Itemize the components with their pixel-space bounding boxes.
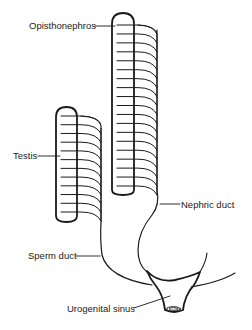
tubule bbox=[117, 97, 157, 106]
sperm-duct bbox=[101, 128, 152, 285]
tubule bbox=[117, 168, 157, 177]
label-sperm-duct: Sperm duct bbox=[28, 250, 100, 261]
tubule bbox=[117, 159, 157, 168]
tubule bbox=[117, 52, 157, 61]
svg-text:Testis: Testis bbox=[13, 150, 38, 161]
tubule bbox=[117, 106, 157, 115]
tubule bbox=[61, 195, 101, 204]
label-testis: Testis bbox=[13, 150, 60, 161]
tubule bbox=[61, 177, 101, 186]
tubule bbox=[61, 168, 101, 177]
tubule bbox=[61, 212, 101, 221]
tubule bbox=[117, 186, 157, 195]
label-opisthonephros: Opisthonephros bbox=[29, 20, 115, 31]
tubule bbox=[117, 70, 157, 79]
tubule bbox=[117, 141, 157, 150]
urogenital-diagram: Opisthonephros Testis Nephric duct Sperm… bbox=[0, 0, 252, 330]
label-urogenital-sinus: Urogenital sinus bbox=[67, 296, 170, 314]
svg-text:Urogenital sinus: Urogenital sinus bbox=[67, 303, 135, 314]
tubule bbox=[61, 160, 101, 169]
opisthonephros bbox=[112, 13, 157, 195]
label-nephric-duct: Nephric duct bbox=[160, 199, 235, 210]
opisthonephros-tubules bbox=[117, 25, 157, 195]
urogenital-sinus bbox=[147, 253, 235, 312]
tubule bbox=[61, 203, 101, 212]
tubule bbox=[117, 34, 157, 43]
tubule bbox=[117, 132, 157, 141]
tubule bbox=[117, 43, 157, 52]
tubule bbox=[117, 114, 157, 123]
tubule bbox=[61, 151, 101, 160]
tubule bbox=[117, 150, 157, 159]
tubule bbox=[61, 125, 101, 134]
svg-text:Nephric duct: Nephric duct bbox=[181, 199, 235, 210]
tubule bbox=[117, 177, 157, 186]
tubule bbox=[61, 186, 101, 195]
tubule bbox=[61, 133, 101, 142]
tubule bbox=[61, 116, 101, 125]
testis-tubules bbox=[61, 116, 101, 221]
tubule bbox=[117, 123, 157, 132]
tubule bbox=[117, 79, 157, 88]
tubule bbox=[61, 142, 101, 151]
svg-text:Opisthonephros: Opisthonephros bbox=[29, 20, 96, 31]
testis bbox=[56, 107, 101, 222]
svg-text:Sperm duct: Sperm duct bbox=[28, 250, 77, 261]
tubule bbox=[117, 25, 157, 34]
tubule bbox=[117, 88, 157, 97]
tubule bbox=[117, 61, 157, 70]
